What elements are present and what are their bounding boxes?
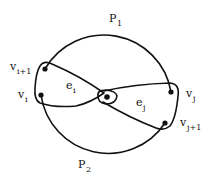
label-v-j-plus-1-subscript: j+1 bbox=[186, 123, 201, 132]
vertex-v-i bbox=[38, 92, 43, 97]
label-p1-subscript: 1 bbox=[117, 19, 122, 28]
hypergraph-diagram: P 1 P 2 v i+1 v i v j v j+1 e i e j bbox=[0, 0, 216, 185]
label-e-i-subscript: i bbox=[73, 86, 76, 95]
label-v-i: v bbox=[17, 88, 25, 101]
label-e-j: e bbox=[136, 96, 143, 109]
label-e-i: e bbox=[66, 79, 73, 92]
label-v-i-plus-1: v bbox=[9, 60, 17, 73]
label-p1: P bbox=[109, 12, 117, 25]
label-v-j-plus-1: v bbox=[179, 116, 187, 129]
label-v-j: v bbox=[185, 87, 193, 100]
label-p2-subscript: 2 bbox=[86, 165, 91, 174]
vertex-v-j-plus-1 bbox=[162, 120, 167, 125]
vertex-v-i-plus-1 bbox=[42, 66, 47, 71]
label-e-j-subscript: j bbox=[142, 103, 145, 112]
vertex-v-j bbox=[168, 89, 173, 94]
label-v-j-subscript: j bbox=[192, 94, 195, 103]
vertex-center bbox=[104, 94, 110, 100]
label-p2: P bbox=[78, 158, 86, 171]
label-v-i-plus-1-subscript: i+1 bbox=[17, 67, 31, 76]
label-v-i-subscript: i bbox=[25, 95, 28, 104]
